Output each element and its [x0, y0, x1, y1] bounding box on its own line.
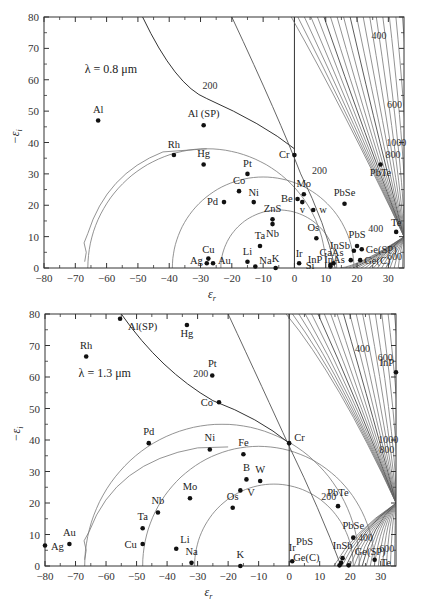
data-point: Ta	[255, 230, 266, 248]
point-label: w	[319, 204, 327, 215]
point-marker	[140, 542, 145, 547]
point-label: Na	[259, 255, 272, 266]
point-label: Ge(C)	[364, 255, 391, 267]
figure: −80−70−60−50−40−30−20−100102030010203040…	[0, 0, 421, 607]
point-marker	[84, 354, 89, 359]
y-tick-label: 0	[35, 560, 41, 572]
y-tick-label: 40	[28, 137, 40, 149]
point-marker	[302, 192, 307, 197]
x-tick-label: 10	[314, 570, 326, 582]
point-label: Be	[281, 193, 293, 204]
data-point: Be	[281, 193, 300, 204]
data-point: Rh	[80, 340, 93, 359]
point-marker	[352, 248, 357, 253]
point-marker	[251, 200, 256, 205]
point-label: Te	[391, 217, 402, 228]
x-tick-label: −70	[67, 272, 85, 284]
point-label: Os	[227, 491, 239, 502]
point-marker	[245, 259, 250, 264]
point-marker	[230, 505, 235, 510]
point-marker	[118, 316, 123, 321]
point-marker	[189, 561, 194, 566]
contour-value-label: 200	[193, 368, 208, 379]
point-label: Cr	[294, 432, 305, 443]
point-label: InP	[379, 357, 394, 368]
data-point: V	[238, 487, 255, 498]
data-point: Al	[93, 104, 104, 123]
point-marker	[210, 373, 215, 378]
x-tick-label: 10	[320, 272, 332, 284]
point-marker	[314, 236, 319, 241]
x-tick-label: −50	[129, 272, 147, 284]
point-label: Co	[233, 175, 245, 186]
point-marker	[206, 256, 211, 261]
point-marker	[311, 208, 316, 213]
y-tick-label: 30	[28, 168, 40, 180]
point-marker	[340, 556, 345, 561]
point-label: InSb	[333, 540, 353, 551]
point-marker	[96, 118, 101, 123]
data-point: Al (SP)	[188, 108, 220, 127]
point-label: GaAs	[320, 247, 344, 258]
point-marker	[208, 447, 213, 452]
x-tick-label: −60	[97, 570, 115, 582]
point-label: PbSe	[334, 187, 356, 198]
x-axis-title: εr	[205, 585, 214, 601]
point-marker	[201, 162, 206, 167]
point-label: Hg	[197, 148, 211, 159]
data-point: Al(SP)	[118, 316, 158, 332]
point-label: Pt	[208, 358, 217, 369]
point-marker	[394, 230, 399, 235]
x-tick-label: −70	[67, 570, 85, 582]
point-label: Te	[381, 557, 392, 568]
point-label: PbS	[296, 536, 313, 547]
point-label: Cu	[202, 244, 215, 255]
point-marker	[188, 496, 193, 501]
point-marker	[355, 244, 360, 249]
x-tick-label: −20	[220, 570, 238, 582]
point-marker	[201, 123, 206, 128]
point-marker	[336, 504, 341, 509]
point-label: Nb	[152, 495, 165, 506]
chart-panel-1.3um: −80−70−60−50−40−30−20−100102030010203040…	[9, 308, 403, 601]
point-marker	[140, 526, 145, 531]
point-label: B	[243, 462, 250, 473]
contour-value-label: 400	[368, 223, 383, 234]
point-marker	[372, 557, 377, 562]
data-point: Te	[391, 217, 402, 234]
point-label: Pt	[243, 158, 252, 169]
data-point: Ni	[248, 187, 259, 204]
point-label: Rh	[168, 139, 181, 150]
point-marker	[287, 441, 292, 446]
y-tick-label: 0	[34, 262, 40, 274]
point-marker	[156, 510, 161, 515]
point-label: PbSe	[342, 520, 364, 531]
point-marker	[241, 452, 246, 457]
point-label: Au	[218, 255, 232, 266]
point-marker	[297, 261, 302, 266]
data-point: Na	[253, 255, 272, 268]
x-tick-label: 0	[286, 570, 292, 582]
point-marker	[258, 479, 263, 484]
point-label: W	[255, 464, 265, 475]
point-marker	[204, 261, 209, 266]
y-tick-label: 80	[28, 11, 40, 23]
x-tick-label: −30	[189, 570, 207, 582]
data-point: Nb	[152, 495, 165, 514]
point-marker	[217, 400, 222, 405]
data-point: Hg	[197, 148, 211, 166]
point-label: Ni	[248, 187, 259, 198]
contour-value-label: 200	[312, 165, 327, 176]
data-point: Os	[227, 491, 239, 510]
point-label: V	[247, 487, 255, 498]
y-tick-label: 80	[29, 308, 41, 320]
point-label: Cu	[124, 539, 137, 550]
x-tick-label: −60	[98, 272, 116, 284]
point-label: Ni	[205, 432, 216, 443]
point-marker	[67, 542, 72, 547]
data-point: Co	[233, 175, 245, 193]
contour-value-label: 400	[358, 532, 373, 543]
point-marker	[358, 258, 363, 263]
y-tick-label: 70	[28, 42, 40, 54]
data-point: Ta	[137, 511, 148, 530]
